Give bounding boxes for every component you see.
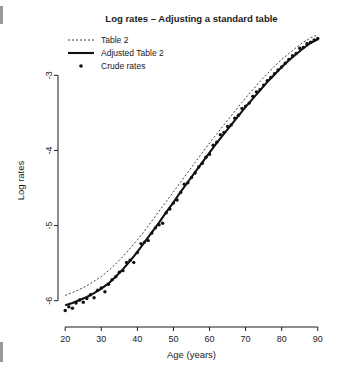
y-tick-label: -5 [44, 222, 54, 230]
y-tick-label: -6 [44, 297, 54, 305]
x-tick-label: 90 [313, 334, 323, 344]
crude-point [92, 296, 95, 299]
y-axis-title: Log rates [15, 160, 26, 200]
legend-item: Adjusted Table 2 [68, 48, 164, 58]
crude-point [64, 309, 67, 312]
legend-item: Table 2 [68, 35, 129, 45]
chart-page: Log rates – Adjusting a standard table20… [0, 0, 342, 370]
crude-point [103, 290, 106, 293]
series-table2 [65, 35, 318, 296]
legend-label: Adjusted Table 2 [101, 48, 164, 58]
x-tick-label: 20 [60, 334, 70, 344]
log-rates-chart: Log rates – Adjusting a standard table20… [0, 0, 342, 370]
series-crude-rates [64, 37, 320, 312]
series-adjusted [65, 39, 318, 305]
legend-item: Crude rates [79, 61, 145, 71]
crude-point [132, 261, 135, 264]
x-tick-label: 40 [132, 334, 142, 344]
legend-swatch-point [79, 64, 83, 68]
legend-label: Crude rates [101, 61, 145, 71]
crude-point [82, 301, 85, 304]
chart-title: Log rates – Adjusting a standard table [105, 13, 277, 24]
x-tick-label: 60 [205, 334, 215, 344]
x-axis-title: Age (years) [167, 349, 216, 360]
crude-point [71, 307, 74, 310]
x-tick-label: 30 [96, 334, 106, 344]
y-tick-label: -4 [44, 146, 54, 154]
y-tick-label: -3 [44, 71, 54, 79]
x-tick-label: 70 [241, 334, 251, 344]
crude-point [161, 222, 164, 225]
legend-label: Table 2 [101, 35, 129, 45]
x-tick-label: 80 [277, 334, 287, 344]
x-tick-label: 50 [168, 334, 178, 344]
